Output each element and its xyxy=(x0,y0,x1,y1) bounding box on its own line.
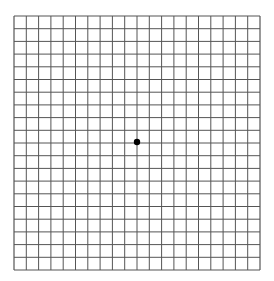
amsler-grid xyxy=(0,0,274,281)
center-fixation-dot xyxy=(134,139,140,145)
